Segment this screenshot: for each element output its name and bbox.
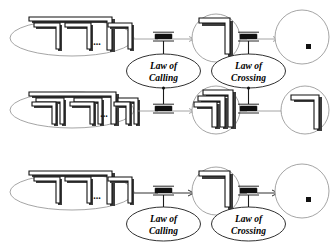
row-3-law-of-crossing[interactable]: Law of Crossing bbox=[212, 207, 286, 241]
row-3-source-ellipsis: ... bbox=[93, 190, 101, 201]
row-1-source-place[interactable]: ... bbox=[10, 17, 134, 56]
row-2-edge-calling-to-middle bbox=[172, 109, 194, 114]
row-1-law-of-calling[interactable]: Law of Calling bbox=[127, 54, 201, 88]
row-3-edge-calling-to-middle bbox=[172, 190, 194, 196]
row-1-target-token-square bbox=[306, 44, 311, 49]
row-3-target-token-square bbox=[306, 197, 311, 202]
row-3-law-of-calling-label-line2: Calling bbox=[149, 226, 178, 236]
row-1-middle-place[interactable] bbox=[192, 14, 240, 62]
row-2-source-ellipsis: ... bbox=[100, 108, 108, 119]
row-1-target-circle bbox=[275, 10, 329, 64]
row-3-source-place[interactable]: ... bbox=[10, 171, 134, 210]
row-2-transition-calling[interactable] bbox=[153, 87, 174, 114]
diagram-canvas: ... Law of Calling bbox=[0, 0, 333, 251]
row-2: ... bbox=[10, 86, 329, 134]
row-3-calling-bar bbox=[155, 188, 172, 193]
row-3-target-place[interactable] bbox=[275, 164, 329, 218]
row-2-transition-crossing[interactable] bbox=[238, 87, 259, 114]
row-3: ... Law of Calling bbox=[10, 164, 329, 241]
row-1-law-of-calling-label-line1: Law of bbox=[149, 61, 178, 71]
row-2-calling-bar bbox=[155, 106, 172, 111]
row-3-law-of-calling-label-line1: Law of bbox=[149, 214, 178, 224]
row-2-source-place[interactable]: ... bbox=[10, 92, 140, 128]
row-3-crossing-bar bbox=[240, 188, 257, 193]
row-1-crossing-bar bbox=[240, 34, 257, 39]
row-2-calling-anchor-dot bbox=[162, 87, 165, 90]
row-1-source-ellipsis: ... bbox=[93, 36, 101, 47]
row-3-middle-place[interactable] bbox=[192, 167, 240, 215]
row-1-law-of-crossing-label-line2: Crossing bbox=[231, 73, 266, 83]
row-1: ... Law of Calling bbox=[10, 10, 329, 88]
row-2-crossing-anchor-dot bbox=[247, 87, 250, 90]
row-1-calling-bar bbox=[155, 34, 172, 39]
row-2-middle-place[interactable] bbox=[192, 86, 240, 134]
row-3-law-of-crossing-label-line1: Law of bbox=[234, 214, 263, 224]
row-1-law-of-calling-label-line2: Calling bbox=[149, 73, 178, 83]
row-2-target-place[interactable] bbox=[281, 86, 329, 134]
row-3-target-circle bbox=[275, 164, 329, 218]
row-1-edge-calling-to-middle bbox=[172, 37, 194, 42]
row-1-law-of-crossing-label-line1: Law of bbox=[234, 61, 263, 71]
row-1-law-of-crossing[interactable]: Law of Crossing bbox=[212, 54, 286, 88]
row-1-target-place[interactable] bbox=[275, 10, 329, 64]
row-2-crossing-bar bbox=[240, 106, 257, 111]
row-3-law-of-crossing-label-line2: Crossing bbox=[231, 226, 266, 236]
row-3-law-of-calling[interactable]: Law of Calling bbox=[127, 207, 201, 241]
